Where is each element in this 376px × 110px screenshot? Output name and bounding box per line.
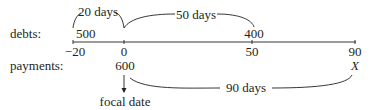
debt-amount-400: 400 — [244, 27, 264, 41]
tick-label-90: 90 — [349, 45, 362, 59]
interval-label-90-days: 90 days — [226, 81, 266, 95]
debt-amount-500: 500 — [76, 27, 96, 41]
focal-date-arrowhead — [122, 88, 127, 93]
interval-label-50-days: 50 days — [176, 8, 216, 22]
row-label-payments: payments: — [10, 59, 63, 73]
payment-amount-x: X — [351, 59, 359, 73]
row-label-debts: debts: — [10, 27, 41, 41]
payment-amount-600: 600 — [115, 59, 135, 73]
tick-label-minus-20: −20 — [65, 45, 85, 59]
tick-label-0: 0 — [121, 45, 128, 59]
focal-date-label: focal date — [100, 95, 151, 109]
tick-label-50: 50 — [246, 45, 259, 59]
interval-arc-90-days-right — [272, 75, 352, 88]
interval-arc-50-days-left — [124, 14, 175, 28]
interval-arc-90-days-left — [130, 78, 220, 88]
interval-label-20-days: 20 days — [78, 5, 118, 19]
